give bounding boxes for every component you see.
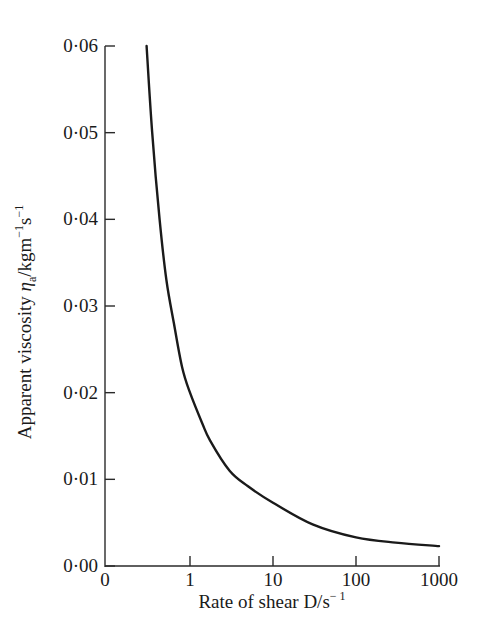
y-axis-title: Apparent viscosity ηa/kgm−1s−1 bbox=[12, 205, 39, 440]
x-tick-label: 10 bbox=[264, 569, 283, 590]
y-tick-label: 0·01 bbox=[63, 468, 98, 489]
viscosity-chart: 0·000·010·020·030·040·050·06 01101001000… bbox=[0, 0, 477, 637]
x-axis-title: Rate of shear D/s− 1 bbox=[198, 589, 345, 612]
y-axis-title-sup1: −1 bbox=[12, 225, 26, 238]
y-axis-ticks: 0·000·010·020·030·040·050·06 bbox=[63, 35, 115, 576]
x-axis-title-superscript: − 1 bbox=[330, 589, 346, 603]
x-tick-label: 1000 bbox=[420, 569, 458, 590]
x-tick-label: 100 bbox=[342, 569, 371, 590]
x-axis-ticks: 01101001000 bbox=[100, 556, 458, 590]
y-tick-label: 0·06 bbox=[63, 35, 98, 56]
x-axis-title-text: Rate of shear D/s bbox=[198, 591, 329, 612]
y-tick-label: 0·02 bbox=[63, 382, 98, 403]
y-axis-title-eta: η bbox=[14, 282, 35, 291]
y-tick-label: 0·00 bbox=[63, 555, 98, 576]
y-tick-label: 0·04 bbox=[63, 208, 98, 229]
y-axis-title-text: Apparent viscosity bbox=[14, 292, 35, 440]
viscosity-curve bbox=[147, 46, 439, 546]
y-axis-title-s: s bbox=[14, 218, 35, 225]
y-tick-label: 0·05 bbox=[63, 122, 98, 143]
y-axis-title-unit: /kgm bbox=[14, 237, 35, 276]
y-axis-title-sup2: −1 bbox=[12, 205, 26, 218]
x-tick-label: 1 bbox=[185, 569, 195, 590]
y-tick-label: 0·03 bbox=[63, 295, 98, 316]
x-tick-label: 0 bbox=[100, 569, 110, 590]
